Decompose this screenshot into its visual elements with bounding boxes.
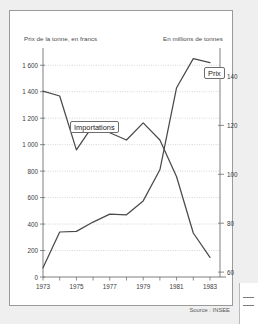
page-edge-strip (239, 283, 258, 324)
y2-tick-marks-group (218, 76, 224, 272)
edge-mark-2 (243, 305, 254, 306)
y2-axis-tick-label: 80 (227, 220, 253, 227)
y-axis-tick-label: 1 000 (12, 141, 38, 148)
y-axis-tick-label: 1 200 (12, 115, 38, 122)
x-axis-tick-label: 1979 (130, 283, 156, 290)
y2-axis-tick-label: 140 (227, 73, 253, 80)
y-axis-tick-label: 400 (12, 221, 38, 228)
y-axis-tick-label: 800 (12, 168, 38, 175)
chart-card: Prix de la tonne, en francs En millions … (9, 10, 233, 306)
y-axis-tick-label: 1 400 (12, 88, 38, 95)
y2-axis-tick-label: 120 (227, 122, 253, 129)
y2-axis-tick-label: 60 (227, 269, 253, 276)
y-axis-tick-label: 1 600 (12, 62, 38, 69)
x-axis-tick-label: 1977 (97, 283, 123, 290)
line-chart-plot (10, 11, 234, 307)
data-series-group (43, 59, 210, 268)
y-axis-tick-label: 200 (12, 247, 38, 254)
x-axis-tick-label: 1973 (30, 283, 56, 290)
x-tick-marks-group (43, 277, 210, 281)
axes-group (43, 48, 226, 277)
x-axis-tick-label: 1981 (164, 283, 190, 290)
y2-axis-tick-label: 100 (227, 171, 253, 178)
y-axis-tick-label: 0 (12, 274, 38, 281)
x-axis-tick-label: 1983 (197, 283, 223, 290)
gridlines-group (43, 65, 220, 250)
y-tick-marks-group (40, 65, 45, 277)
x-axis-tick-label: 1975 (63, 283, 89, 290)
edge-mark-1 (243, 297, 254, 298)
series-label-prix: Prix (204, 67, 225, 79)
y-axis-tick-label: 600 (12, 194, 38, 201)
source-note: Source : INSEE (160, 307, 230, 313)
series-label-importations: Importations (70, 121, 119, 133)
